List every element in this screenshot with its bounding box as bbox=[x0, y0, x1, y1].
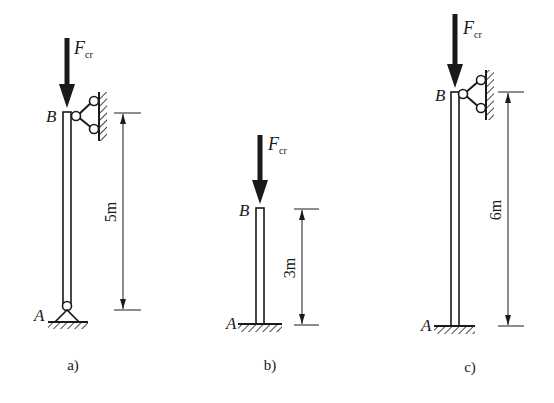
panel-b: Fcr B A 3m b) bbox=[225, 134, 319, 374]
length-label: 6m bbox=[487, 199, 504, 220]
node-label-b: B bbox=[435, 86, 446, 105]
lateral-support-icon bbox=[459, 70, 495, 120]
length-label: 3m bbox=[281, 257, 298, 278]
panel-c: Fcr B A 6m c) bbox=[420, 14, 524, 376]
force-label: Fcr bbox=[267, 134, 287, 156]
buckling-diagram: Fcr B A 5m a bbox=[0, 0, 554, 403]
node-label-a: A bbox=[225, 314, 237, 333]
node-label-b: B bbox=[46, 107, 57, 126]
node-label-b: B bbox=[239, 201, 250, 220]
column-b bbox=[256, 208, 264, 324]
panel-caption: c) bbox=[464, 359, 476, 376]
node-label-a: A bbox=[33, 306, 45, 325]
column-a bbox=[63, 112, 71, 304]
force-arrow-icon bbox=[59, 38, 75, 108]
force-label: Fcr bbox=[73, 38, 93, 60]
node-label-a: A bbox=[420, 316, 432, 335]
length-label: 5m bbox=[102, 201, 119, 222]
fixed-support-icon bbox=[434, 326, 475, 334]
force-label: Fcr bbox=[462, 18, 482, 40]
fixed-support-icon bbox=[238, 324, 282, 332]
force-arrow-icon bbox=[252, 135, 268, 204]
pin-support-icon bbox=[48, 302, 88, 330]
panel-a: Fcr B A 5m a bbox=[33, 38, 141, 374]
lateral-support-icon bbox=[72, 92, 108, 141]
force-arrow-icon bbox=[447, 14, 463, 88]
column-c bbox=[451, 92, 459, 326]
panel-caption: a) bbox=[67, 357, 79, 374]
panel-caption: b) bbox=[264, 357, 277, 374]
